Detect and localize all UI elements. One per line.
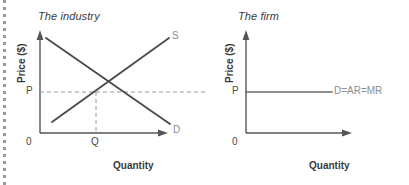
supply-curve (52, 38, 169, 122)
panel-industry-plot (0, 0, 205, 185)
panel-firm: The firm Price ($) Quantity 0 P D=AR=MR (205, 0, 409, 185)
panel-industry-x-axis (40, 130, 168, 137)
economics-diagram: The industry Price ($) Quantity 0 P Q S … (0, 0, 409, 185)
panel-firm-y-axis (243, 30, 250, 133)
panel-industry-y-axis (37, 30, 44, 133)
panel-industry: The industry Price ($) Quantity 0 P Q S … (0, 0, 205, 185)
panel-firm-x-axis (246, 130, 352, 137)
panel-firm-plot (205, 0, 409, 185)
